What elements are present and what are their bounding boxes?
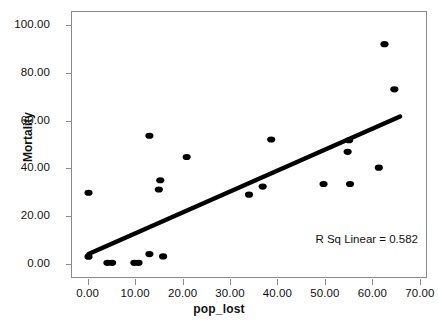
- data-point: [159, 253, 167, 259]
- x-tick-mark: [325, 279, 326, 285]
- y-tick-label: 60.00: [21, 115, 50, 127]
- r-squared-annotation: R Sq Linear = 0.582: [315, 233, 418, 245]
- x-tick-mark: [372, 279, 373, 285]
- data-point: [267, 136, 275, 142]
- data-point: [345, 137, 353, 143]
- data-point: [259, 184, 267, 190]
- data-point: [346, 181, 354, 187]
- data-point: [380, 41, 388, 47]
- y-tick-label: 40.00: [21, 162, 50, 174]
- data-point: [156, 177, 164, 183]
- data-point: [134, 260, 142, 266]
- data-point: [84, 190, 92, 196]
- data-point: [375, 165, 383, 171]
- data-point: [390, 86, 398, 92]
- scatter-plot-figure: Mortality 0.0020.0040.0060.0080.00100.00…: [0, 0, 438, 330]
- y-tick-label: 100.00: [14, 19, 50, 31]
- y-axis-tick-labels: 0.0020.0040.0060.0080.00100.00: [0, 0, 62, 330]
- data-point: [155, 186, 163, 192]
- data-point: [344, 149, 352, 155]
- plot-area: R Sq Linear = 0.582: [71, 11, 427, 278]
- y-tick-label: 20.00: [21, 210, 50, 222]
- x-tick-mark: [420, 279, 421, 285]
- data-point: [183, 154, 191, 160]
- x-tick-mark: [135, 279, 136, 285]
- y-tick-label: 0.00: [27, 258, 50, 270]
- data-point: [145, 133, 153, 139]
- x-tick-mark: [88, 279, 89, 285]
- x-tick-mark: [277, 279, 278, 285]
- x-axis-title: pop_lost: [0, 302, 438, 316]
- x-tick-mark: [230, 279, 231, 285]
- x-tick-label: 70.00: [390, 288, 438, 300]
- y-tick-label: 80.00: [21, 67, 50, 79]
- data-point: [145, 251, 153, 257]
- data-point: [245, 192, 253, 198]
- x-tick-mark: [183, 279, 184, 285]
- data-point: [84, 254, 92, 260]
- data-point: [319, 181, 327, 187]
- data-point: [108, 260, 116, 266]
